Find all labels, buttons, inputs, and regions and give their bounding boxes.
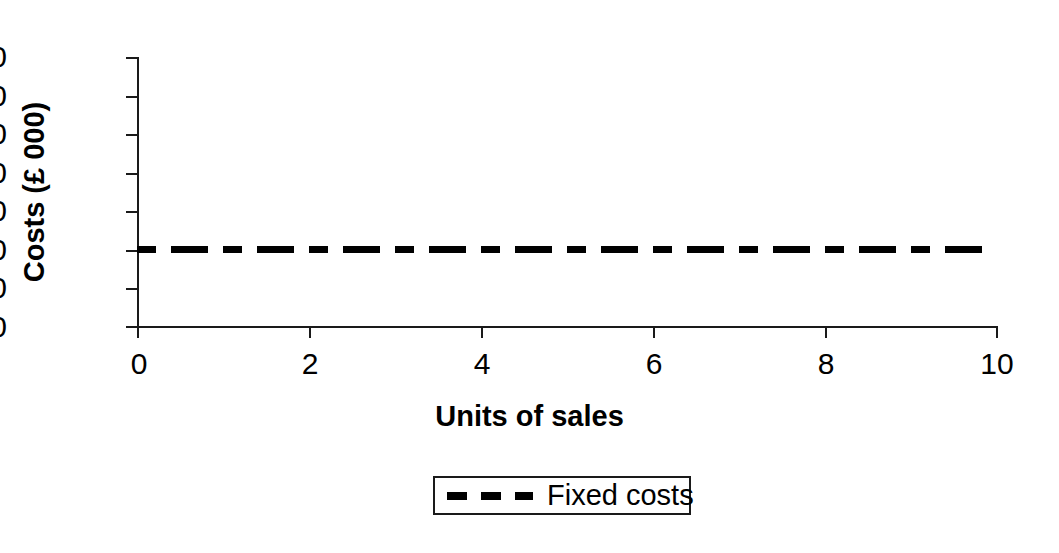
y-axis-tick xyxy=(126,57,137,59)
chart-legend: Fixed costs xyxy=(433,476,691,515)
x-tick-label: 2 xyxy=(265,349,355,379)
plot-area: 0 2 4 6 8 10 xyxy=(137,57,997,327)
x-tick-label: 6 xyxy=(609,349,699,379)
y-axis-tick xyxy=(126,96,137,98)
series-line-svg xyxy=(137,246,997,253)
x-tick-label: 4 xyxy=(437,349,527,379)
y-axis-tick xyxy=(126,288,137,290)
legend-label-fixed-costs: Fixed costs xyxy=(547,481,694,510)
y-tick-label: 0 xyxy=(0,312,7,342)
x-axis-tick xyxy=(137,326,139,338)
x-tick-label: 10 xyxy=(952,349,1042,379)
y-tick-label: 10 xyxy=(0,273,7,303)
x-axis-tick xyxy=(653,326,655,338)
x-axis-title: Units of sales xyxy=(0,402,1059,431)
series-line-fixed-costs xyxy=(137,246,997,253)
y-axis-title: Costs (£ 000) xyxy=(6,57,62,327)
x-tick-label: 0 xyxy=(94,349,184,379)
x-tick-label: 8 xyxy=(781,349,871,379)
y-tick-label: 70 xyxy=(0,42,7,72)
x-axis-tick xyxy=(825,326,827,338)
y-axis-tick xyxy=(126,134,137,136)
y-axis-tick xyxy=(126,173,137,175)
y-tick-label: 20 xyxy=(0,235,7,265)
y-tick-label: 50 xyxy=(0,119,7,149)
y-axis-tick xyxy=(126,211,137,213)
x-axis-tick xyxy=(996,326,998,338)
y-tick-label: 30 xyxy=(0,196,7,226)
x-axis-line xyxy=(137,326,998,328)
x-axis-tick xyxy=(481,326,483,338)
y-tick-label: 60 xyxy=(0,81,7,111)
legend-swatch-fixed-costs xyxy=(447,492,533,500)
x-axis-tick xyxy=(309,326,311,338)
y-axis-tick xyxy=(126,326,137,328)
y-tick-label: 40 xyxy=(0,158,7,188)
fixed-costs-line-chart: Costs (£ 000) 70 60 50 40 30 20 10 0 0 2… xyxy=(0,0,1059,553)
legend-swatch-svg xyxy=(447,492,533,500)
y-axis-tick xyxy=(126,250,137,252)
y-axis-line xyxy=(137,57,139,328)
